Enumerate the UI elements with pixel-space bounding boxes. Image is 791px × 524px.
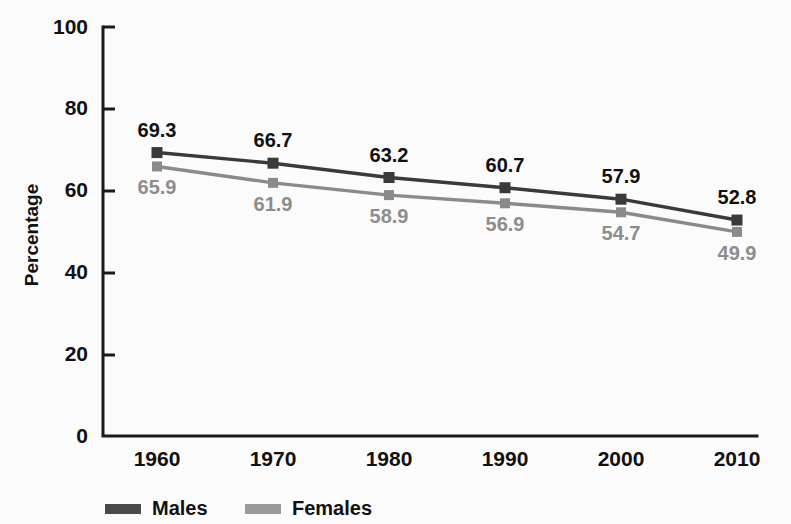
data-point-marker (616, 194, 627, 205)
chart-axes (103, 27, 757, 436)
data-point-label: 57.9 (602, 165, 641, 187)
data-point-label: 69.3 (138, 119, 177, 141)
y-tick-label-20: 20 (65, 342, 88, 365)
legend-item-males[interactable]: Males (152, 497, 208, 519)
data-point-label: 60.7 (486, 154, 525, 176)
y-tick-label-80: 80 (65, 96, 88, 119)
line-chart: Percentage 100 80 60 40 20 0 1960 1970 1… (0, 0, 791, 524)
data-point-label: 65.9 (138, 176, 177, 198)
data-point-marker (616, 207, 626, 217)
y-tick-label-0: 0 (76, 424, 88, 447)
y-tick-label-60: 60 (65, 178, 88, 201)
x-tick-label-1990: 1990 (482, 447, 529, 470)
data-point-marker (732, 227, 742, 237)
data-point-label: 61.9 (254, 193, 293, 215)
data-point-marker (384, 190, 394, 200)
series-data-labels-males: 69.366.763.260.757.952.8 (138, 119, 757, 208)
data-point-label: 49.9 (718, 242, 757, 264)
x-tick-label-2000: 2000 (598, 447, 645, 470)
data-point-marker (384, 172, 395, 183)
data-point-marker (500, 198, 510, 208)
x-tick-label-1970: 1970 (250, 447, 297, 470)
data-point-marker (268, 178, 278, 188)
data-point-label: 56.9 (486, 213, 525, 235)
males-swatch-icon (105, 504, 141, 514)
data-point-marker (732, 215, 743, 226)
data-point-label: 63.2 (370, 144, 409, 166)
series-line-females (157, 166, 737, 231)
chart-canvas: Percentage 100 80 60 40 20 0 1960 1970 1… (0, 0, 791, 524)
series-line-males (157, 153, 737, 220)
data-point-label: 52.8 (718, 186, 757, 208)
y-tick-label-100: 100 (53, 15, 88, 38)
data-point-marker (152, 147, 163, 158)
x-tick-label-1960: 1960 (134, 447, 181, 470)
x-tick-label-1980: 1980 (366, 447, 413, 470)
data-point-marker (500, 182, 511, 193)
data-point-label: 66.7 (254, 129, 293, 151)
chart-legend: Males Females (105, 497, 372, 519)
y-axis-title: Percentage (21, 184, 42, 286)
legend-item-females[interactable]: Females (292, 497, 372, 519)
data-point-label: 58.9 (370, 205, 409, 227)
data-point-label: 54.7 (602, 222, 641, 244)
y-tick-label-40: 40 (65, 260, 88, 283)
x-tick-label-2010: 2010 (714, 447, 761, 470)
data-point-marker (268, 158, 279, 169)
data-point-marker (152, 161, 162, 171)
females-swatch-icon (245, 504, 281, 514)
